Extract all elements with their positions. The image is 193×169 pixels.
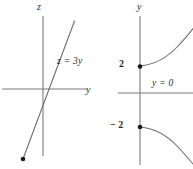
upper-branch-endpoint-dot	[138, 64, 143, 69]
math-figure: z y z = 3y y 2 − 2 y = 0	[0, 0, 193, 169]
linear-equation-label: z = 3y	[57, 57, 83, 67]
left-panel-group	[2, 16, 87, 161]
asymptote-label: y = 0	[152, 79, 174, 89]
upper-branch-curve	[140, 29, 193, 67]
line-endpoint-dot	[21, 157, 26, 162]
right-panel-group	[118, 16, 193, 165]
linear-function-line	[23, 21, 75, 159]
left-horizontal-axis-label: y	[86, 85, 90, 95]
lower-branch-endpoint-dot	[138, 125, 143, 130]
lower-branch-curve	[140, 127, 193, 164]
left-vertical-axis-label: z	[37, 2, 41, 12]
y-tick-label-negative-two: − 2	[110, 120, 123, 130]
right-vertical-axis-label: y	[137, 2, 141, 12]
y-tick-label-positive-two: 2	[119, 59, 124, 69]
